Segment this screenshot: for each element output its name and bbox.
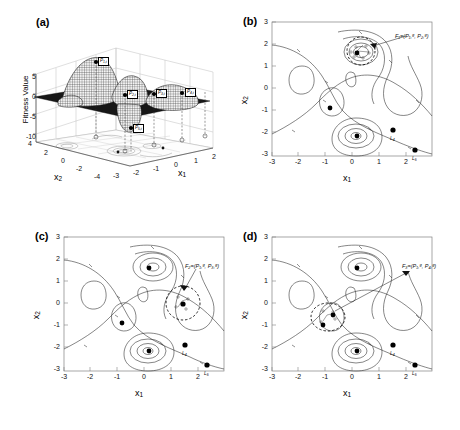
panel-d-xtick-2: -1 (322, 373, 328, 380)
panel-a-x2tick-2: 0 (61, 157, 65, 164)
optimum-l5 (412, 147, 417, 152)
panel-b-ytick-0: 0 (256, 84, 268, 91)
panel-c-ytick-m2: -2 (46, 343, 60, 350)
panel-c-label: (c) (35, 230, 48, 242)
panel-a-x2tick-4: -4 (94, 173, 100, 180)
panel-d-ytick-3: 3 (256, 233, 268, 240)
panel-c: (c) x2 3 2 1 0 -1 -2 -3 (0, 215, 230, 430)
panel-b-xtick-1: -2 (295, 158, 301, 165)
panel-a-x1tick-1: -2 (133, 169, 139, 176)
optimum-p2 (120, 321, 125, 326)
panel-c-ytick-3: 3 (48, 233, 60, 240)
panel-a-peak-label-5: P5,t (133, 124, 144, 133)
panel-d-ytick-m3: -3 (254, 365, 268, 372)
optimum-p4 (331, 313, 336, 318)
panel-d-xtick-4: 1 (377, 373, 381, 380)
panel-b-ytick-1: 1 (256, 62, 268, 69)
panel-c-ytick-m1: -1 (46, 321, 60, 328)
panel-c-ytick-1: 1 (48, 277, 60, 284)
panel-b-x-title: x1 (343, 173, 351, 183)
optimum-p2 (328, 106, 333, 111)
panel-b-ytick-m2: -2 (254, 128, 268, 135)
panel-a-peak-label-3: P3,t (156, 89, 167, 98)
panel-d-ytick-m2: -2 (254, 343, 268, 350)
panel-a-x1tick-4: 1 (194, 157, 198, 164)
panel-d: (d) x2 3 2 1 0 -1 -2 -3 (230, 215, 460, 430)
panel-d-frame (272, 237, 432, 371)
optimum-p2 (321, 323, 326, 328)
panel-a-ztick-3: -10 (18, 133, 36, 140)
panel-a-x1tick-2: -1 (153, 165, 159, 172)
panel-d-x-title: x1 (343, 388, 351, 398)
panel-c-x-title: x1 (135, 388, 143, 398)
optimum-p5 (355, 349, 360, 354)
optimum-l5 (204, 362, 209, 367)
panel-d-ytick-m1: -1 (254, 321, 268, 328)
panel-d-ytick-0: 0 (256, 299, 268, 306)
panel-d-annotation: F₃=(P₁,ᵍ, P₄,ᵍ) (402, 263, 436, 269)
panel-b-xtick-5: 2 (404, 158, 408, 165)
optimum-p5 (147, 349, 152, 354)
panel-a-label: (a) (36, 16, 49, 28)
panel-d-yaxis-title: x2 (239, 302, 249, 328)
panel-a-x2-title: x2 (54, 172, 62, 182)
panel-b-ytick-m1: -1 (254, 106, 268, 113)
panel-c-annotation: F₂=(P₁,ᵍ, P₃,ᵍ) (185, 263, 219, 269)
optimum-l5 (412, 362, 417, 367)
panel-b-point-label-l4: L₄ (390, 135, 395, 141)
panel-d-ytick-1: 1 (256, 277, 268, 284)
panel-a-peak-label-1: P1,t (98, 57, 109, 66)
panel-a-ztick-1: 0 (22, 93, 36, 100)
panel-d-xtick-0: -3 (269, 373, 275, 380)
panel-d-point-label-l4: L₄ (390, 350, 395, 356)
panel-a: (a) Fitness Value 5 0 -5 -10 (0, 0, 230, 215)
panel-a-x2tick-3: -2 (76, 165, 82, 172)
panel-b-xtick-4: 1 (377, 158, 381, 165)
panel-c-ytick-0: 0 (48, 299, 60, 306)
panel-b-xtick-2: -1 (322, 158, 328, 165)
optimum-p5 (355, 134, 360, 139)
panel-a-x1-title: x1 (178, 168, 186, 178)
panel-b-label: (b) (243, 15, 257, 27)
panel-b-frame (272, 22, 432, 156)
panel-c-point-label-l5: L₅ (204, 370, 209, 376)
optimum-l4 (182, 342, 187, 347)
optimum-p1 (355, 51, 360, 56)
optimum-l4 (390, 342, 395, 347)
panel-c-xtick-0: -3 (61, 373, 67, 380)
panel-d-xtick-3: 0 (350, 373, 354, 380)
panel-a-x1tick-3: 0 (174, 161, 178, 168)
panel-b-yaxis-title: x2 (239, 87, 249, 113)
panel-d-point-label-l5: L₅ (412, 370, 417, 376)
panel-d-xtick-5: 2 (404, 373, 408, 380)
panel-c-xtick-2: -1 (114, 373, 120, 380)
panel-b-ytick-3: 3 (256, 18, 268, 25)
panel-b-annotation: F₁=(P₁,ᵍ, P₂,ᵍ) (395, 33, 429, 39)
optimum-p1 (147, 266, 152, 271)
panel-a-x2tick-0: 4 (28, 140, 32, 147)
panel-a-peak-label-4: P4,t (185, 88, 196, 97)
panel-c-xtick-3: 0 (142, 373, 146, 380)
panel-a-ztick-0: 5 (22, 73, 36, 80)
figure-root: (a) Fitness Value 5 0 -5 -10 (0, 0, 460, 430)
panel-d-ytick-2: 2 (256, 255, 268, 262)
panel-b-point-label-l5: L₅ (412, 155, 417, 161)
panel-a-x2tick-1: 2 (44, 149, 48, 156)
panel-c-ytick-m3: -3 (46, 365, 60, 372)
panel-b-ytick-2: 2 (256, 40, 268, 47)
panel-d-xtick-1: -2 (295, 373, 301, 380)
panel-b: (b) x2 3 2 1 0 -1 -2 -3 (230, 0, 460, 215)
optimum-p1 (355, 266, 360, 271)
optimum-p3 (180, 301, 185, 306)
panel-a-ztick-2: -5 (22, 113, 36, 120)
panel-c-xtick-1: -2 (87, 373, 93, 380)
panel-c-point-label-l4: L₄ (182, 350, 187, 356)
panel-c-xtick-5: 2 (196, 373, 200, 380)
panel-c-xtick-4: 1 (169, 373, 173, 380)
panel-d-label: (d) (243, 230, 257, 242)
panel-a-surface-plot (0, 0, 230, 215)
panel-b-xtick-0: -3 (269, 158, 275, 165)
panel-c-yaxis-title: x2 (31, 302, 41, 328)
panel-c-ytick-2: 2 (48, 255, 60, 262)
optimum-l4 (390, 127, 395, 132)
